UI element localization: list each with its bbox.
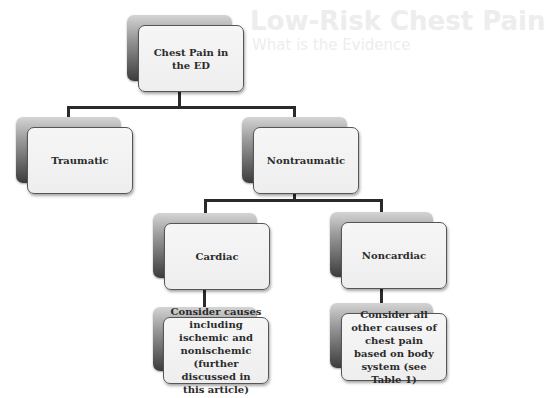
connector-noncardiac-detail <box>380 288 383 304</box>
background-subtitle: What is the Evidence <box>252 36 411 54</box>
node-label: Chest Pain in the ED <box>138 25 244 92</box>
node-label: Noncardiac <box>341 222 447 289</box>
connector-level1-bar <box>67 106 296 109</box>
connector-cardiac-drop <box>204 199 207 214</box>
background-title: Low-Risk Chest Pain <box>250 6 546 36</box>
node-label: Traumatic <box>27 127 133 194</box>
node-label: Cardiac <box>164 223 270 290</box>
connector-level2-bar <box>204 199 383 202</box>
node-label: Consider causes including ischemic and n… <box>163 317 269 384</box>
node-label: Consider all other causes of chest pain … <box>341 313 447 381</box>
node-label: Nontraumatic <box>253 127 359 194</box>
connector-noncardiac-drop <box>380 199 383 213</box>
